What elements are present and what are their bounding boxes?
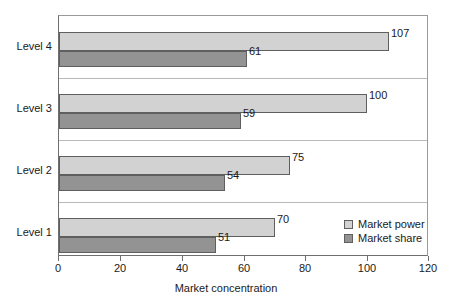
category-label-level-1: Level 1 [2,227,52,238]
x-tick-label-120: 120 [419,263,437,274]
legend-label: Market share [358,233,422,244]
bar-market-power-level-1[interactable] [59,218,275,237]
bar-value-market-power-level-3: 100 [369,90,387,101]
bar-value-market-share-level-3: 59 [243,108,255,119]
bar-value-market-power-level-2: 75 [292,152,304,163]
bar-value-market-share-level-1: 51 [218,232,230,243]
bar-market-share-level-1[interactable] [59,237,216,253]
bar-market-power-level-2[interactable] [59,156,290,175]
category-gridline [59,202,427,203]
x-tick-120 [428,256,429,261]
legend-swatch-icon [344,234,353,243]
bar-value-market-power-level-1: 70 [277,214,289,225]
bar-market-power-level-3[interactable] [59,94,367,113]
bar-value-market-share-level-4: 61 [249,46,261,57]
x-tick-100 [367,256,368,261]
x-tick-80 [305,256,306,261]
bar-market-share-level-2[interactable] [59,175,225,191]
legend: Market power Market share [344,219,425,244]
x-tick-60 [244,256,245,261]
x-tick-label-100: 100 [358,263,376,274]
x-tick-40 [182,256,183,261]
bar-market-power-level-4[interactable] [59,32,389,51]
x-tick-20 [120,256,121,261]
bar-chart: Market power Market share 107 61 100 59 … [0,0,452,305]
bar-market-share-level-4[interactable] [59,51,247,67]
legend-label: Market power [358,219,425,230]
category-label-level-3: Level 3 [2,103,52,114]
x-tick-label-0: 0 [55,263,61,274]
bar-market-share-level-3[interactable] [59,113,241,129]
legend-item-market-share[interactable]: Market share [344,233,425,244]
plot-area: Market power Market share [58,15,428,256]
x-axis-title: Market concentration [0,283,452,294]
bar-value-market-share-level-2: 54 [227,170,239,181]
legend-item-market-power[interactable]: Market power [344,219,425,230]
bar-value-market-power-level-4: 107 [391,28,409,39]
x-tick-label-20: 20 [114,263,126,274]
x-tick-0 [58,256,59,261]
x-tick-label-80: 80 [299,263,311,274]
x-tick-label-60: 60 [238,263,250,274]
legend-swatch-icon [344,220,353,229]
category-gridline [59,140,427,141]
category-label-level-4: Level 4 [2,41,52,52]
category-gridline [59,78,427,79]
category-label-level-2: Level 2 [2,165,52,176]
x-tick-label-40: 40 [176,263,188,274]
